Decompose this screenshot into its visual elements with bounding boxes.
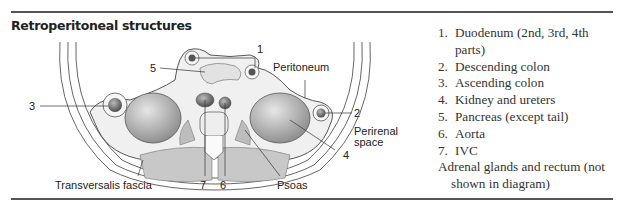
label-1: 1 bbox=[257, 43, 263, 55]
label-6: 6 bbox=[220, 179, 226, 191]
list-item: 3.Ascending colon bbox=[438, 75, 618, 92]
label-2: 2 bbox=[354, 107, 360, 119]
kidney-right bbox=[250, 93, 310, 143]
label-perirenal-2: space bbox=[354, 136, 383, 148]
label-5: 5 bbox=[150, 62, 156, 74]
retroperitoneal-structures-list: 1.Duodenum (2nd, 3rd, 4th parts) 2.Desce… bbox=[438, 25, 618, 193]
retroperitoneum-cross-section-diagram: 1 5 3 Peritoneum 2 Perirenal space 4 Tra… bbox=[0, 30, 430, 198]
bottom-rule bbox=[11, 198, 613, 200]
back-muscle-right bbox=[218, 147, 290, 181]
list-item: 4.Kidney and ureters bbox=[438, 92, 618, 109]
label-3: 3 bbox=[29, 100, 35, 112]
vertebral-body bbox=[200, 112, 228, 136]
back-muscle-left bbox=[140, 147, 212, 181]
label-psoas: Psoas bbox=[277, 179, 308, 191]
label-peritoneum: Peritoneum bbox=[273, 61, 329, 73]
top-rule bbox=[11, 11, 613, 13]
list-item: 2.Descending colon bbox=[438, 59, 618, 76]
list-item: 5.Pancreas (except tail) bbox=[438, 109, 618, 126]
list-item: 1.Duodenum (2nd, 3rd, 4th parts) bbox=[438, 25, 618, 59]
label-7: 7 bbox=[200, 179, 206, 191]
list-item: 6.Aorta bbox=[438, 126, 618, 143]
list-item: 7.IVC bbox=[438, 143, 618, 160]
kidney-left bbox=[125, 93, 181, 143]
label-4: 4 bbox=[343, 149, 349, 161]
list-note: Adrenal glands and rectum (not shown in … bbox=[438, 159, 618, 193]
label-transversalis-fascia: Transversalis fascia bbox=[55, 179, 153, 191]
